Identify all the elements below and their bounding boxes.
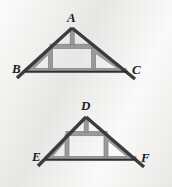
upper-king-post xyxy=(70,31,74,45)
lower-king-post xyxy=(84,120,88,133)
vertex-label-f: F xyxy=(141,151,150,164)
upper-left-diagonal-brace xyxy=(31,50,51,69)
truss-diagram-figure: A B C D E F xyxy=(0,0,172,187)
vertex-label-a: A xyxy=(67,11,76,24)
vertex-label-d: D xyxy=(81,99,90,112)
vertex-label-c: C xyxy=(132,63,141,76)
vertex-label-e: E xyxy=(32,150,41,163)
upper-truss-group xyxy=(17,28,135,79)
vertex-label-b: B xyxy=(12,62,21,75)
lower-truss-group xyxy=(38,117,144,167)
